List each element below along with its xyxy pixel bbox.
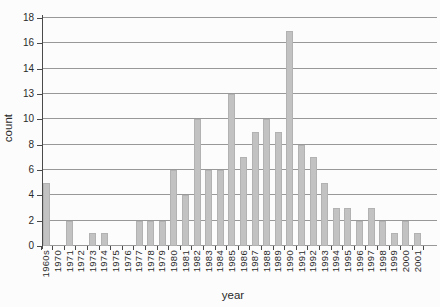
x-tick <box>342 246 343 250</box>
x-tick <box>400 246 401 250</box>
y-tick-label: 4 <box>7 189 34 201</box>
x-tick-label: 2001 <box>412 250 423 272</box>
y-tick <box>37 94 42 95</box>
gridline <box>42 144 437 145</box>
x-tick-label: 1996 <box>354 250 365 272</box>
x-tick-label: 1976 <box>122 250 133 272</box>
x-tick <box>180 246 181 250</box>
x-tick-label: 1970 <box>52 250 63 272</box>
bar-1996 <box>356 221 363 246</box>
x-tick-label: 1994 <box>330 250 341 272</box>
bar-1979 <box>159 221 166 246</box>
x-tick <box>203 246 204 250</box>
y-tick <box>37 145 42 146</box>
x-axis-title: year <box>0 289 440 301</box>
bar-2001 <box>414 233 421 246</box>
x-tick-label: 1987 <box>249 250 260 272</box>
gridline <box>42 118 437 119</box>
bar-1985 <box>228 94 235 246</box>
bar-1995 <box>344 208 351 246</box>
bar-chart: count 024681013141618 1960s1970197119721… <box>0 0 440 307</box>
bar-1971 <box>66 221 73 246</box>
x-tick-label: 1997 <box>365 250 376 272</box>
x-tick <box>41 246 42 250</box>
x-tick <box>377 246 378 250</box>
y-tick-label: 2 <box>7 215 34 227</box>
x-tick-label: 1977 <box>133 250 144 272</box>
x-tick-label: 1971 <box>64 250 75 272</box>
bar-1980 <box>170 170 177 246</box>
bar-1984 <box>217 170 224 246</box>
x-tick <box>133 246 134 250</box>
x-tick-label: 1974 <box>98 250 109 272</box>
x-tick <box>412 246 413 250</box>
x-tick <box>110 246 111 250</box>
x-tick <box>249 246 250 250</box>
gridline <box>42 42 437 43</box>
plot-area <box>42 18 437 246</box>
x-tick-label: 1995 <box>342 250 353 272</box>
y-tick-label: 13 <box>7 88 34 100</box>
x-tick <box>226 246 227 250</box>
y-tick <box>37 119 42 120</box>
y-tick <box>37 195 42 196</box>
bar-1977 <box>136 221 143 246</box>
bar-1998 <box>379 221 386 246</box>
x-tick <box>64 246 65 250</box>
x-tick <box>215 246 216 250</box>
x-tick-label: 1986 <box>238 250 249 272</box>
x-tick-label: 1993 <box>319 250 330 272</box>
bar-1994 <box>333 208 340 246</box>
bar-1974 <box>101 233 108 246</box>
y-tick <box>37 170 42 171</box>
bar-1987 <box>252 132 259 246</box>
bar-1988 <box>263 119 270 246</box>
x-tick <box>75 246 76 250</box>
x-tick <box>319 246 320 250</box>
x-tick-label: 2000 <box>400 250 411 272</box>
y-tick-label: 0 <box>7 240 34 252</box>
x-tick-label: 1982 <box>191 250 202 272</box>
x-tick-label: 1983 <box>203 250 214 272</box>
y-tick <box>37 221 42 222</box>
x-tick <box>52 246 53 250</box>
x-tick <box>354 246 355 250</box>
x-tick-label: 1992 <box>307 250 318 272</box>
bar-1981 <box>182 195 189 246</box>
y-tick-label: 8 <box>7 139 34 151</box>
x-tick-label: 1978 <box>145 250 156 272</box>
x-tick <box>389 246 390 250</box>
bar-1993 <box>321 183 328 246</box>
gridline <box>42 17 437 18</box>
bar-1997 <box>368 208 375 246</box>
x-tick <box>261 246 262 250</box>
y-tick-label: 6 <box>7 164 34 176</box>
x-tick-label: 1999 <box>388 250 399 272</box>
y-tick-label: 16 <box>7 37 34 49</box>
x-tick <box>168 246 169 250</box>
x-tick-label: 1981 <box>180 250 191 272</box>
x-tick-label: 1980 <box>168 250 179 272</box>
x-tick-label: 1973 <box>87 250 98 272</box>
y-tick-label: 10 <box>7 113 34 125</box>
bar-2000 <box>402 221 409 246</box>
y-tick <box>37 18 42 19</box>
y-tick-label: 14 <box>7 63 34 75</box>
bar-1982 <box>194 119 201 246</box>
x-tick-label: 1979 <box>156 250 167 272</box>
x-tick-label: 1975 <box>110 250 121 272</box>
bar-1992 <box>310 157 317 246</box>
x-tick-label: 1984 <box>214 250 225 272</box>
x-tick <box>331 246 332 250</box>
bar-1990 <box>286 31 293 246</box>
x-tick <box>145 246 146 250</box>
x-tick <box>365 246 366 250</box>
bar-1973 <box>89 233 96 246</box>
y-tick <box>37 43 42 44</box>
x-tick-label: 1960s <box>40 250 51 277</box>
x-tick <box>273 246 274 250</box>
x-tick <box>191 246 192 250</box>
x-tick <box>307 246 308 250</box>
bar-1989 <box>275 132 282 246</box>
gridline <box>42 68 437 69</box>
